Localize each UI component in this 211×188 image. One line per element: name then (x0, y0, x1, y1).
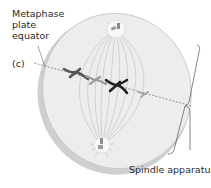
upper-spindle-pole (107, 20, 125, 38)
metaphase-label-line-1: Metaphase (12, 8, 64, 19)
metaphase-plate-equator-label: Metaphase plate equator (12, 8, 64, 41)
lower-spindle-pole (94, 137, 110, 153)
metaphase-label-line-2: plate (12, 19, 64, 30)
metaphase-label-leader-line (38, 46, 45, 67)
metaphase-diagram: Metaphase plate equator (c) Spindle appa… (0, 0, 211, 188)
panel-label: (c) (12, 58, 25, 69)
metaphase-label-line-3: equator (12, 30, 64, 41)
spindle-apparatus-label: Spindle apparatus (129, 164, 211, 175)
